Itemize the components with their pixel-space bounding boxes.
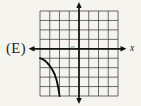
coordinate-grid-figure bbox=[0, 0, 141, 106]
origin-label: 0 bbox=[71, 44, 75, 52]
x-axis bbox=[29, 46, 127, 51]
x-axis-label: x bbox=[130, 43, 134, 53]
y-axis bbox=[76, 2, 81, 104]
figure-option-e: (E) 0 x bbox=[0, 0, 141, 106]
